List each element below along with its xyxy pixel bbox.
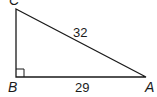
vertex-label-b: B	[8, 79, 17, 95]
triangle-svg: C B A 32 29	[0, 0, 157, 97]
right-triangle-diagram: C B A 32 29	[0, 0, 157, 97]
triangle-shape	[16, 9, 146, 77]
vertex-label-a: A	[144, 79, 154, 95]
right-angle-marker	[16, 69, 24, 77]
side-length-hypotenuse: 32	[73, 25, 87, 40]
vertex-label-c: C	[9, 0, 20, 8]
side-length-base: 29	[75, 80, 89, 95]
